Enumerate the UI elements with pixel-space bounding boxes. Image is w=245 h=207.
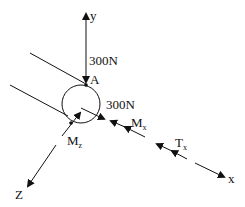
point-a-label: A: [90, 72, 100, 87]
shaft-upper-edge: [30, 53, 86, 84]
x-axis-line: [195, 163, 224, 177]
z-axis-label: Z: [15, 187, 23, 202]
z-axis-line: [28, 145, 56, 186]
force-horizontal-label: 300N: [106, 97, 136, 112]
moment-mx-label: Mx: [131, 115, 147, 132]
moment-mx-arrow: [111, 121, 125, 127]
point-a-dot: [84, 83, 88, 87]
shaft-lower-edge: [10, 85, 68, 116]
torque-tx-label: Tx: [175, 135, 187, 152]
moment-mz-line: [72, 113, 80, 123]
free-body-diagram: y 300N A 300N Mx Mz Tx x Z: [0, 0, 245, 207]
force-300n-horizontal-arrow: [81, 108, 104, 119]
x-axis-label: x: [228, 171, 235, 186]
y-axis-label: y: [90, 8, 97, 23]
shaft-cross-section: [62, 85, 100, 123]
force-vertical-label: 300N: [89, 53, 119, 68]
moment-mz-label: Mz: [67, 133, 83, 150]
torque-tx-arrow: [157, 144, 172, 151]
torque-tx-line: [172, 151, 187, 159]
